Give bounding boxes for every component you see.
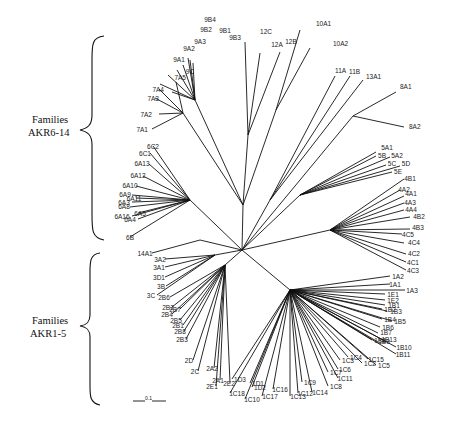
leaf-label: 4C1 (407, 259, 419, 266)
brace-akr1-5 (80, 253, 100, 405)
leaf-label: 1B5 (394, 318, 406, 325)
branch-leaf (152, 240, 200, 253)
leaf-label: 7A4 (152, 86, 164, 93)
leaf-label: 1C3 (342, 357, 354, 364)
branch-akr12 (243, 135, 248, 205)
branch-leaf (300, 165, 386, 195)
branch-leaf (330, 203, 404, 230)
leaf-label: 1B10 (396, 344, 412, 351)
branch-leaf (330, 230, 406, 262)
leaf-label: 4C3 (407, 267, 419, 274)
leaf-label: 1C14 (312, 389, 328, 396)
leaf-label: 4C5 (402, 231, 414, 238)
branch-leaf (262, 290, 290, 396)
leaf-label: 1C5 (378, 362, 390, 369)
branch-leaf (270, 80, 363, 200)
leaf-label: 12C (260, 28, 272, 35)
branch-leaf (152, 113, 183, 129)
leaf-label: 12A (271, 41, 283, 48)
leaf-label: 1C10 (244, 396, 260, 403)
branch-leaf (330, 179, 404, 230)
leaf-label: 9B2 (200, 26, 212, 33)
leaf-label: 9B1 (219, 27, 231, 34)
branch-leaf (276, 48, 310, 110)
branch-leaf (300, 152, 376, 195)
branch-leaf (290, 276, 390, 290)
leaf-label: 5C (388, 160, 397, 167)
leaf-label: 3D1 (153, 274, 165, 281)
leaf-label: 8A2 (409, 123, 421, 130)
leaf-label: 1A3 (406, 287, 418, 294)
branch-akr5 (242, 195, 300, 250)
group-label-akr6-14-line1: Families (32, 114, 68, 125)
branch-leaf (172, 265, 225, 307)
branch-leaf (159, 113, 183, 114)
group-label-akr1-5-line1: Families (32, 315, 68, 326)
leaf-label: 1B9 (378, 338, 390, 345)
leaf-label: 9C (186, 68, 195, 75)
branch-leaf (172, 92, 195, 100)
leaf-label: 13A1 (366, 73, 382, 80)
leaf-label: 6A5 (134, 210, 146, 217)
leaf-label: 9A2 (183, 45, 195, 52)
branch-akr4 (242, 230, 330, 250)
leaf-label: 7A2 (140, 111, 152, 118)
leaf-label: 1D2 (254, 384, 266, 391)
branch-leaf (176, 82, 183, 113)
leaf-label: 3A1 (153, 264, 165, 271)
branch-leaf (150, 153, 190, 200)
leaf-label: 6A12 (130, 172, 146, 179)
leaf-label: 1C8 (330, 383, 342, 390)
group-label-akr1-5-line2: AKR1-5 (30, 328, 66, 339)
leaf-label: 10A2 (333, 40, 349, 47)
leaf-label: 4A3 (404, 199, 416, 206)
phylogenetic-tree: 9B49B29B19B39A39A29A19C12C12A12B10A110A2… (0, 0, 449, 423)
leaf-label: 1C13 (290, 393, 306, 400)
group-label-akr6-14-line2: AKR6-14 (28, 127, 70, 138)
leaf-label: 1A1 (389, 281, 401, 288)
leaf-label: 2B6 (158, 294, 170, 301)
leaf-label: 6A8 (118, 203, 130, 210)
leaf-label: 9B4 (204, 16, 216, 23)
scale-bar-label: 0.1 (145, 395, 152, 401)
leaf-label: 4A1 (405, 190, 417, 197)
leaf-label: 5D (402, 160, 411, 167)
branch-leaf (232, 290, 290, 379)
leaf-label: 11B (349, 68, 360, 75)
leaf-label: 4A4 (405, 206, 417, 213)
leaf-label: 1D3 (234, 376, 246, 383)
leaf-label: 1C17 (262, 393, 278, 400)
branch-leaf (225, 265, 230, 383)
leaf-label: 3C (147, 292, 156, 299)
branch-leaf (270, 76, 335, 200)
leaf-label: 12B (285, 38, 297, 45)
branch-central (242, 205, 243, 250)
branch-akr3 (215, 250, 242, 255)
leaf-label: 1C16 (272, 386, 288, 393)
branch-leaf (300, 156, 376, 195)
leaf-label: 2A2 (206, 365, 218, 372)
leaf-label: 3A2 (154, 256, 166, 263)
leaf-label: 4B1 (404, 175, 416, 182)
leaf-label: 6C2 (147, 143, 159, 150)
leaf-label: 9A3 (194, 38, 206, 45)
leaf-label: 7A3 (147, 95, 159, 102)
branch-leaf (330, 229, 410, 230)
leaf-label: 2D (185, 357, 194, 364)
branch-akr7 (183, 113, 243, 205)
branch-leaf (252, 290, 290, 387)
branch-akr1 (242, 250, 290, 290)
leaf-label: 11A (335, 67, 347, 74)
leaf-label: 2B8 (174, 328, 186, 335)
leaf-labels: 9B49B29B19B39A39A29A19C12C12A12B10A110A2… (114, 16, 425, 403)
leaf-label: 1B3 (390, 308, 402, 315)
leaf-label: 1C11 (337, 375, 352, 382)
leaf-label: 1C2 (364, 360, 376, 367)
branch-leaf (248, 52, 280, 135)
branch-akr11-13 (242, 200, 270, 250)
leaf-label: 6B (126, 234, 134, 241)
leaf-label: 5A1 (381, 144, 393, 151)
leaf-label: 2B3 (176, 336, 188, 343)
leaf-label: 4B3 (412, 224, 424, 231)
branch-leaf (155, 98, 183, 113)
